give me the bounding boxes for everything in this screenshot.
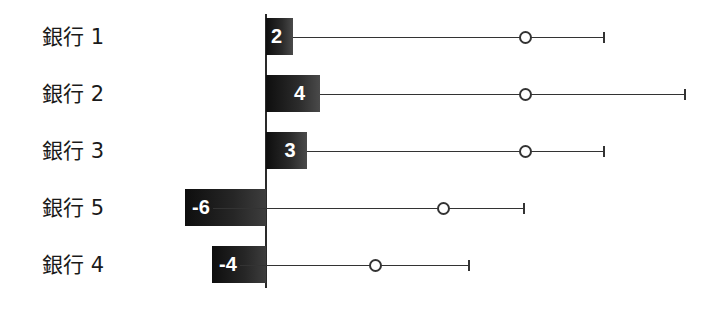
circle-marker-icon: [437, 202, 450, 215]
row-label: 銀行 1: [42, 18, 104, 56]
row-label: 銀行 4: [42, 246, 104, 284]
range-line: [307, 151, 604, 152]
bar-value-label: 4: [294, 75, 305, 112]
range-line: [240, 265, 469, 266]
range-line: [320, 94, 685, 95]
row-label: 銀行 5: [42, 189, 104, 227]
bar-value-label: 3: [285, 132, 296, 169]
circle-marker-icon: [369, 259, 382, 272]
row-label: 銀行 2: [42, 75, 104, 113]
bar-value-label: 2: [271, 18, 282, 55]
bank-bar-chart: 銀行 1 銀行 2 銀行 3 銀行 5 銀行 4 243-6-4: [0, 0, 722, 310]
circle-marker-icon: [519, 31, 532, 44]
row-label: 銀行 3: [42, 132, 104, 170]
bar: [266, 75, 320, 112]
range-line: [213, 208, 524, 209]
circle-marker-icon: [519, 88, 532, 101]
bar-value-label: -6: [192, 189, 210, 226]
range-line: [293, 37, 604, 38]
circle-marker-icon: [519, 145, 532, 158]
bar-value-label: -4: [219, 246, 237, 283]
